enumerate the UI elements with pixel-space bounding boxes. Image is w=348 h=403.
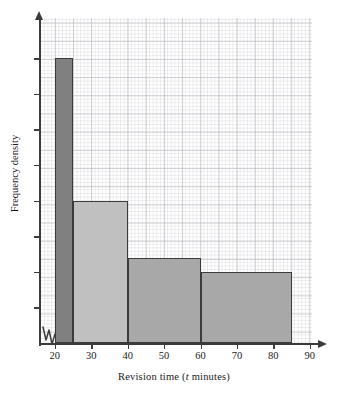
x-axis-tick-label: 40	[113, 350, 143, 361]
y-axis-title: Frequency density	[9, 114, 20, 234]
x-axis-tick-label: 20	[40, 350, 70, 361]
x-axis-tick-label: 50	[149, 350, 179, 361]
plot-area	[40, 18, 312, 343]
x-axis-tick	[201, 343, 202, 349]
histogram-bar	[201, 272, 292, 343]
x-axis-tick-label: 30	[76, 350, 106, 361]
x-axis-line	[39, 343, 323, 345]
histogram-bar	[73, 201, 128, 343]
histogram-bar	[55, 58, 73, 343]
y-axis-line	[39, 18, 41, 346]
x-axis-tick	[128, 343, 129, 349]
x-axis-tick	[273, 343, 274, 349]
histogram-bar	[128, 258, 201, 343]
x-axis-tick	[91, 343, 92, 349]
x-axis-title: Revision time (t minutes)	[0, 371, 348, 382]
x-axis-tick-label: 60	[186, 350, 216, 361]
y-axis-tick	[34, 129, 40, 130]
x-axis-tick-label: 80	[258, 350, 288, 361]
y-axis-tick	[34, 272, 40, 273]
x-axis-tick	[164, 343, 165, 349]
y-axis-tick	[34, 58, 40, 59]
y-axis-tick	[34, 165, 40, 166]
y-axis-tick	[34, 236, 40, 237]
x-axis-tick-label: 90	[295, 350, 325, 361]
histogram-figure: 2030405060708090 Revision time (t minute…	[0, 0, 348, 403]
x-axis-arrow-icon	[318, 340, 327, 348]
x-axis-tick-label: 70	[222, 350, 252, 361]
x-axis-tick	[237, 343, 238, 349]
y-axis-tick	[34, 307, 40, 308]
x-axis-tick	[310, 343, 311, 349]
y-axis-arrow-icon	[35, 11, 43, 20]
y-axis-tick	[34, 94, 40, 95]
y-axis-tick	[34, 201, 40, 202]
x-axis-title-suffix: minutes)	[189, 371, 230, 382]
x-axis-title-prefix: Revision time (	[118, 371, 186, 382]
